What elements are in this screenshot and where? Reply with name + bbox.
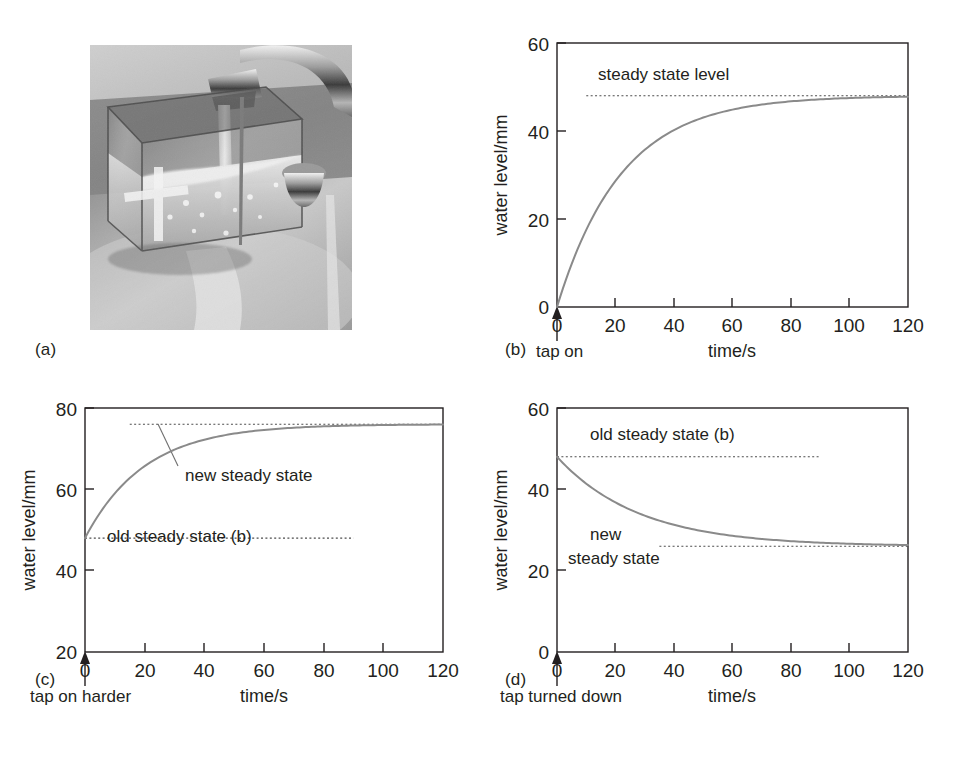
- data-curve-b: [557, 97, 908, 307]
- x-tick-label-80-d: 80: [780, 660, 801, 681]
- x-tick-label-80-c: 80: [313, 660, 334, 681]
- y-tick-label-20-d: 20: [528, 561, 549, 582]
- y-axis-title-c: water level/mm: [19, 469, 39, 591]
- x-tick-label-20-b: 20: [604, 315, 625, 336]
- chart-b: 60 40 20 0 water level/mm 0 20 40 60 80 …: [470, 10, 954, 375]
- photo-illustration: [90, 45, 352, 330]
- annotation-steady-state-d: steady state: [568, 549, 660, 568]
- x-tick-label-80-b: 80: [780, 315, 801, 336]
- x-axis-ticks-c: [145, 643, 383, 652]
- annotation-steady-state-level-b: steady state level: [598, 65, 729, 84]
- x-tick-label-100-d: 100: [833, 660, 865, 681]
- leader-line-new-steady-state-c: [158, 424, 178, 466]
- photo-tank-shadow: [108, 243, 252, 275]
- figure-water-level-steady-state: (a) 60 40 20 0 water level/mm: [0, 0, 954, 761]
- panel-label-a: (a): [35, 340, 56, 360]
- y-tick-label-60-d: 60: [528, 399, 549, 420]
- x-tick-label-20-d: 20: [604, 660, 625, 681]
- panel-d-chart: 60 40 20 0 water level/mm 0 20 40 60 80 …: [470, 380, 954, 761]
- event-label-b: tap on: [536, 342, 583, 361]
- annotation-old-steady-state-d: old steady state (b): [590, 425, 735, 444]
- panel-label-c: (c): [35, 670, 55, 690]
- x-tick-label-60-d: 60: [721, 660, 742, 681]
- y-axis-title-d: water level/mm: [491, 469, 511, 591]
- y-tick-label-60-b: 60: [528, 34, 549, 55]
- panel-a-photograph: (a): [0, 10, 470, 375]
- x-tick-label-60-b: 60: [721, 315, 742, 336]
- chart-d: 60 40 20 0 water level/mm 0 20 40 60 80 …: [470, 380, 954, 761]
- y-tick-label-20-c: 20: [56, 642, 77, 663]
- x-tick-label-100-c: 100: [367, 660, 399, 681]
- x-tick-label-40-d: 40: [663, 660, 684, 681]
- x-tick-label-100-b: 100: [833, 315, 865, 336]
- y-tick-label-0-d: 0: [538, 642, 549, 663]
- x-tick-label-20-c: 20: [134, 660, 155, 681]
- x-axis-title-d: time/s: [708, 686, 756, 706]
- x-tick-label-120-c: 120: [427, 660, 459, 681]
- panel-label-b: (b): [505, 340, 526, 360]
- y-tick-label-40-b: 40: [528, 122, 549, 143]
- x-tick-label-120-d: 120: [892, 660, 924, 681]
- chart-c: 80 60 40 20 water level/mm 0 20 40 60 80…: [0, 380, 470, 761]
- x-tick-label-40-c: 40: [193, 660, 214, 681]
- x-tick-label-60-c: 60: [253, 660, 274, 681]
- y-axis-ticks-b: [557, 43, 566, 219]
- panel-b-chart: 60 40 20 0 water level/mm 0 20 40 60 80 …: [470, 10, 954, 375]
- y-tick-label-40-d: 40: [528, 480, 549, 501]
- y-tick-label-0-b: 0: [538, 297, 549, 318]
- x-tick-label-120-b: 120: [892, 315, 924, 336]
- x-tick-label-40-b: 40: [663, 315, 684, 336]
- y-axis-title-b: water level/mm: [491, 114, 511, 236]
- y-tick-label-20-b: 20: [528, 210, 549, 231]
- y-axis-ticks-d: [557, 408, 566, 570]
- panel-label-d: (d): [505, 670, 526, 690]
- y-tick-label-60-c: 60: [56, 480, 77, 501]
- annotation-new-steady-state-c: new steady state: [185, 466, 313, 485]
- y-axis-ticks-c: [85, 408, 94, 570]
- x-axis-title-b: time/s: [708, 341, 756, 361]
- x-axis-ticks-b: [615, 298, 849, 307]
- annotation-old-steady-state-c: old steady state (b): [107, 527, 252, 546]
- x-axis-title-c: time/s: [240, 686, 288, 706]
- y-tick-label-80-c: 80: [56, 399, 77, 420]
- y-tick-label-40-c: 40: [56, 561, 77, 582]
- x-axis-ticks-d: [615, 643, 849, 652]
- panel-c-chart: 80 60 40 20 water level/mm 0 20 40 60 80…: [0, 380, 470, 761]
- tap-and-tank-photo: [90, 45, 352, 330]
- annotation-new-d: new: [590, 525, 622, 544]
